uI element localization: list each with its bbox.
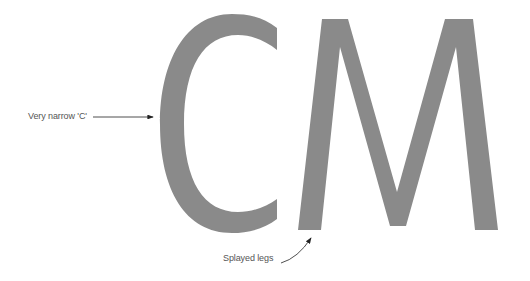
annotation-splayed-legs: Splayed legs [223,253,273,263]
typography-diagram: Very narrow 'C' Splayed legs [0,0,530,281]
glyph-artwork [0,0,530,281]
letter-m [298,19,498,230]
arrow-splayed-legs-icon [281,238,311,263]
letter-c [160,14,277,233]
annotation-narrow-c: Very narrow 'C' [28,111,87,121]
